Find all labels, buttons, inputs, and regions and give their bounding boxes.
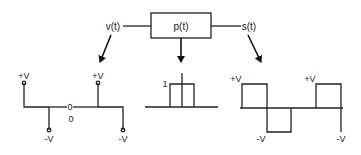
v-wave-right-segment	[98, 107, 123, 130]
v-arrow-icon	[100, 35, 111, 62]
signal-diagram: p(t) v(t) s(t) +V -V 0 0 +V -V 1	[0, 0, 361, 155]
s-signal-label: s(t)	[242, 21, 256, 32]
s-waveform-panel: +V -V +V -V	[230, 74, 345, 144]
v-zero-label: 0	[68, 114, 73, 124]
v-signal-input: v(t)	[100, 21, 151, 62]
s-arrow-icon	[248, 35, 261, 62]
v-label-right-neg: -V	[119, 134, 128, 144]
s-pos-pulse-1	[242, 84, 267, 108]
p-pulse-panel: 1	[145, 73, 218, 107]
s-pos-pulse-2	[316, 84, 341, 108]
s-label-pos-2: +V	[304, 74, 315, 84]
s-label-neg-1: -V	[257, 134, 266, 144]
s-label-neg-2: -V	[337, 134, 346, 144]
v-label-right-pos: +V	[92, 71, 103, 81]
s-signal-input: s(t)	[211, 21, 261, 62]
v-zero-mark: 0	[67, 102, 72, 112]
v-waveform-panel: +V -V 0 0 +V -V	[18, 71, 127, 144]
v-wave-left-segment	[24, 83, 49, 107]
p-amplitude-label: 1	[162, 79, 167, 89]
v-signal-label: v(t)	[106, 21, 120, 32]
s-neg-pulse-1	[267, 108, 291, 132]
pulse-block-label: p(t)	[174, 21, 189, 32]
pulse-block: p(t)	[151, 13, 211, 38]
v-label-left-neg: -V	[45, 134, 54, 144]
v-label-left-pos: +V	[18, 71, 29, 81]
s-label-pos-1: +V	[230, 74, 241, 84]
